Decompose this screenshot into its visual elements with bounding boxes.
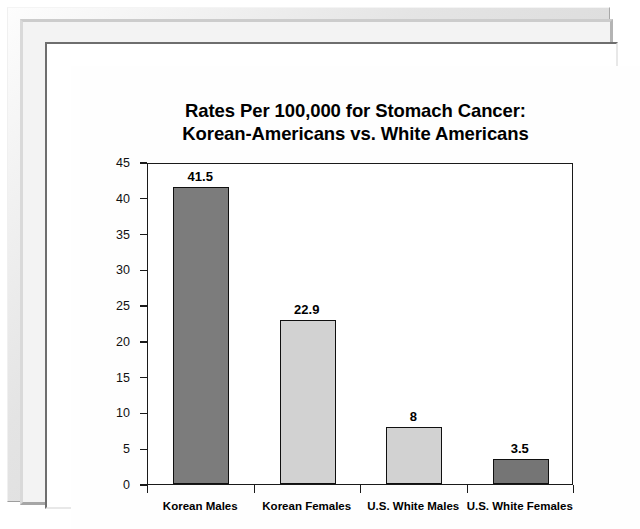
y-axis-tick-mark [140,484,147,485]
chart-title: Rates Per 100,000 for Stomach Cancer: Ko… [71,99,640,145]
picture-frame-inner-edge: Rates Per 100,000 for Stomach Cancer: Ko… [45,42,618,509]
y-axis-tick-label: 0 [90,478,130,492]
y-axis-tick-label: 10 [90,406,130,420]
y-axis-tick-label: 25 [90,299,130,313]
x-axis-tick-mark [360,485,361,493]
y-axis-tick-mark [140,377,147,378]
y-axis-tick-mark [140,449,147,450]
bar-value-label: 8 [373,409,453,424]
chart-canvas: Rates Per 100,000 for Stomach Cancer: Ko… [71,66,640,529]
y-axis-tick-mark [140,270,147,271]
bar [386,427,442,484]
chart-title-line-1: Rates Per 100,000 for Stomach Cancer: [71,99,640,122]
picture-frame-outer: Rates Per 100,000 for Stomach Cancer: Ko… [7,7,610,502]
bar-value-label: 22.9 [267,302,347,317]
plot-area [147,163,573,485]
y-axis-tick-mark [140,234,147,235]
picture-frame-bevel: Rates Per 100,000 for Stomach Cancer: Ko… [20,19,613,505]
y-axis-tick-label: 30 [90,263,130,277]
x-axis-tick-mark [467,485,468,493]
y-axis-tick-label: 15 [90,371,130,385]
bar [280,320,336,484]
bar-value-label: 3.5 [480,441,560,456]
bar-value-label: 41.5 [160,169,240,184]
y-axis-tick-mark [140,305,147,306]
y-axis-tick-mark [140,162,147,163]
y-axis-tick-label: 5 [90,442,130,456]
y-axis-tick-mark [140,341,147,342]
x-axis-tick-mark [147,485,148,493]
bar [173,187,229,484]
y-axis-tick-label: 20 [90,335,130,349]
y-axis-tick-label: 35 [90,228,130,242]
chart-title-line-2: Korean-Americans vs. White Americans [71,122,640,145]
x-axis-tick-mark [573,485,574,493]
x-axis-tick-mark [254,485,255,493]
y-axis-tick-label: 45 [90,156,130,170]
y-axis-tick-mark [140,198,147,199]
bar [493,459,549,484]
x-axis-category-label: U.S. White Females [450,500,590,512]
y-axis-tick-mark [140,413,147,414]
y-axis-tick-label: 40 [90,192,130,206]
